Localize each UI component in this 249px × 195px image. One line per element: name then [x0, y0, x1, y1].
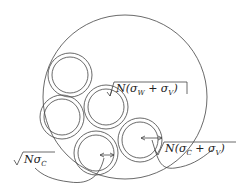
label-c-prefix: Nσ: [24, 153, 41, 166]
label-c-sub1: C: [41, 160, 46, 168]
label-cv-prefix: N(σ: [165, 142, 186, 155]
arrow-right-width: [141, 136, 162, 140]
label-wv-prefix: N(σ: [116, 82, 137, 95]
label-wv-mid: + σ: [145, 82, 169, 95]
label-cv-mid: + σ: [192, 142, 216, 155]
diagram-canvas: N(σW + σV) N(σC + σV) NσC: [0, 0, 249, 195]
annulus-bottom: [74, 131, 118, 175]
arrow-bottom-width: [100, 153, 114, 157]
label-wv-sub1: W: [137, 89, 144, 97]
label-cv: N(σC + σV): [165, 143, 225, 157]
label-wv-suffix: ): [173, 82, 177, 95]
annulus-top-left: [48, 53, 92, 97]
label-cv-suffix: ): [221, 142, 225, 155]
label-c: NσC: [24, 154, 47, 168]
annulus-mid-left: [40, 95, 84, 139]
label-wv: N(σW + σV): [116, 83, 178, 97]
annulus-right: [118, 118, 162, 162]
